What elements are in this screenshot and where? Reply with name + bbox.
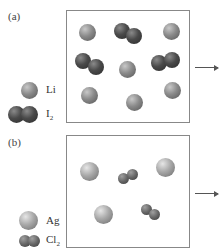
ag-atom: [94, 205, 113, 224]
legend-ag-label: Ag: [46, 214, 59, 226]
panel-b-label: (b): [8, 136, 21, 148]
legend-li-icon: [21, 82, 38, 99]
i2-molecule-atom: [164, 52, 180, 68]
legend-li-label: Li: [46, 83, 56, 95]
i2-molecule-atom: [88, 59, 104, 75]
legend-ag-icon: [19, 211, 38, 230]
li-atom: [163, 23, 180, 40]
legend-cl2-label: Cl2: [46, 233, 60, 248]
legend-i2-label: I2: [46, 107, 53, 122]
li-atom: [79, 24, 96, 41]
reaction-arrow-b: [195, 193, 218, 194]
panel-a-label: (a): [8, 10, 20, 22]
li-atom: [81, 87, 98, 104]
panel-b-reaction-box: [66, 135, 190, 248]
li-atom: [119, 61, 136, 78]
legend-i2-icon-atom: [21, 106, 38, 123]
li-atom: [126, 94, 143, 111]
i2-molecule-atom: [126, 28, 142, 44]
li-atom: [164, 82, 181, 99]
cl2-molecule-atom: [127, 169, 138, 180]
legend-cl2-icon-atom: [28, 235, 40, 247]
reaction-arrow-a: [195, 67, 218, 68]
ag-atom: [156, 158, 175, 177]
cl2-molecule-atom: [149, 209, 160, 220]
ag-atom: [80, 162, 99, 181]
